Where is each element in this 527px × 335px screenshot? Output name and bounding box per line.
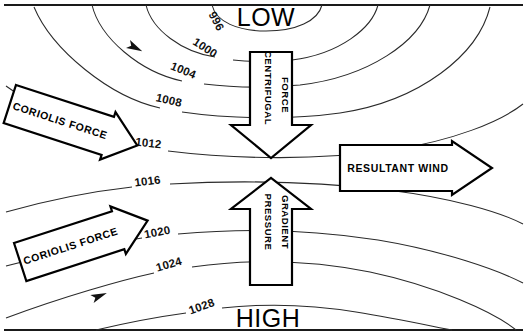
resultant-wind-label: RESULTANT WIND xyxy=(347,162,448,174)
isobar-label-1008: 1008 xyxy=(155,91,184,109)
isobar-label-1024: 1024 xyxy=(155,255,184,274)
coriolis-force-upper-arrow: CORIOLIS FORCE xyxy=(2,80,145,169)
centrifugal-force-label-line1: CENTRIFUGAL xyxy=(263,51,274,125)
isobar-label-996: 996 xyxy=(207,10,227,33)
isobar-labels: 996 1000 1004 1008 1012 1016 1020 1024 1… xyxy=(134,10,227,317)
high-pressure-label: HIGH xyxy=(236,304,301,332)
isobar-label-1000: 1000 xyxy=(191,35,220,59)
low-pressure-label: LOW xyxy=(237,3,295,31)
pressure-gradient-label-line2: GRADIENT xyxy=(280,195,291,249)
isobar-label-1028: 1028 xyxy=(187,296,216,316)
flow-arrowheads xyxy=(87,40,144,303)
diagram-canvas: 996 1000 1004 1008 1012 1016 1020 1024 1… xyxy=(0,0,527,335)
isobar-label-1004: 1004 xyxy=(169,60,198,81)
isobar-label-1016: 1016 xyxy=(134,173,162,188)
pressure-gradient-diagram: 996 1000 1004 1008 1012 1016 1020 1024 1… xyxy=(0,0,527,335)
flow-arrowhead-1004 xyxy=(126,40,144,55)
flow-arrowhead-1024 xyxy=(90,289,108,303)
centrifugal-force-arrow: CENTRIFUGAL FORCE xyxy=(231,51,311,158)
isobar-label-1020: 1020 xyxy=(143,224,171,241)
resultant-wind-arrow: RESULTANT WIND xyxy=(340,141,492,195)
isobar-label-1012: 1012 xyxy=(135,136,163,151)
coriolis-force-lower-arrow: CORIOLIS FORCE xyxy=(12,197,155,286)
pressure-gradient-label-line1: PRESSURE xyxy=(263,194,274,251)
centrifugal-force-label-line2: FORCE xyxy=(280,77,291,113)
